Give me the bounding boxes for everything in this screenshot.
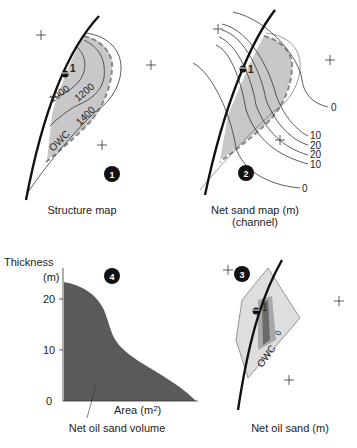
panel-net-oil-sand: 0 OWC 1 3 Net oil sand (m) [223, 260, 344, 434]
y-axis-unit: (m) [43, 271, 60, 283]
caption-net-oil-sand: Net oil sand (m) [251, 422, 329, 434]
well-icon [253, 308, 260, 315]
caption-net-sand-channel: (channel) [232, 216, 278, 228]
well-label: 1 [70, 63, 76, 74]
panel-structure-map: 1000 1200 1400 OWC 1 1 Structure map [26, 16, 156, 216]
svg-text:3: 3 [239, 270, 244, 280]
panel-net-sand-map: 0 10 20 20 10 0 1 2 Net sand map (m) (ch… [193, 10, 337, 228]
well-icon [240, 66, 247, 73]
well-label: 1 [248, 64, 254, 75]
contour-label-10-b: 10 [310, 159, 322, 170]
panel-volume-chart: Thickness (m) 20 10 0 Area (m2) Net oil … [4, 256, 198, 434]
net-oil-sand-area [64, 282, 196, 401]
well-label: 1 [262, 302, 268, 313]
svg-text:1: 1 [109, 170, 114, 180]
contour-label-0-top: 0 [331, 102, 337, 113]
ytick-20: 20 [43, 293, 55, 305]
x-axis-label: Area (m2) [114, 404, 161, 416]
svg-text:4: 4 [109, 272, 114, 282]
y-axis-label: Thickness [4, 256, 54, 268]
contour-label-0-bottom: 0 [302, 183, 308, 194]
caption-net-oil-sand-volume: Net oil sand volume [69, 422, 166, 434]
ytick-10: 10 [43, 344, 55, 356]
caption-structure-map: Structure map [47, 204, 116, 216]
well-icon [62, 71, 69, 78]
diagram-canvas: 1000 1200 1400 OWC 1 1 Structure map [0, 0, 357, 448]
ytick-0: 0 [46, 395, 52, 407]
caption-net-sand-map: Net sand map (m) [211, 204, 299, 216]
svg-text:2: 2 [243, 169, 248, 179]
